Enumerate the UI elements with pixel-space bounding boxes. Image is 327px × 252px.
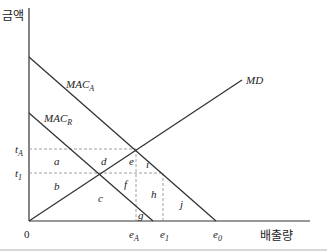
region-b: b [54, 180, 60, 192]
mac-r-curve [29, 113, 153, 221]
t-1-label: t1 [15, 167, 22, 182]
region-j: j [178, 198, 183, 210]
region-i: i [146, 158, 149, 170]
e-a-label: eA [129, 228, 139, 243]
e-0-label: e0 [213, 228, 222, 243]
md-curve [29, 80, 242, 221]
region-a: a [54, 155, 60, 167]
mac-a-curve [29, 57, 216, 221]
y-axis-label: 금액 [2, 9, 24, 23]
region-g: g [138, 209, 144, 221]
x-axis-label: 배출량 [260, 229, 293, 243]
region-e: e [129, 155, 134, 167]
t-a-label: tA [15, 143, 23, 158]
origin-label: 0 [24, 228, 30, 240]
mac-a-label: MACA [65, 78, 94, 93]
bottom-divider [0, 249, 327, 251]
mac-r-label: MACR [43, 112, 72, 127]
md-label: MD [245, 74, 263, 86]
emissions-diagram: 금액 배출량 0 MACA MACR MD tA t1 eA e1 e0 a b… [0, 0, 327, 252]
region-c: c [98, 192, 103, 204]
region-d: d [101, 155, 107, 167]
region-h: h [151, 188, 157, 200]
e-1-label: e1 [160, 228, 169, 243]
region-f: f [124, 178, 129, 190]
